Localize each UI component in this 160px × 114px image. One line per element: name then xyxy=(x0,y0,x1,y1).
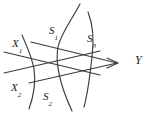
label-s3-base: S xyxy=(87,32,93,44)
label-x1: X1 xyxy=(12,34,22,53)
curve-s2 xyxy=(22,35,35,109)
label-x2-base: X xyxy=(11,81,18,93)
label-s2-base: S xyxy=(43,90,49,102)
label-x2: X2 xyxy=(11,78,21,97)
math-figure: X1 X2 S1 S2 S3 Y xyxy=(0,0,160,114)
label-s1-base: S xyxy=(49,24,55,36)
label-x1-subscript: 1 xyxy=(19,47,23,55)
label-s3-subscript: 3 xyxy=(93,42,97,50)
label-s2-subscript: 2 xyxy=(49,100,53,108)
label-s2: S2 xyxy=(43,87,52,106)
line-x2-to-y xyxy=(29,63,117,83)
label-x2-subscript: 2 xyxy=(18,91,22,99)
label-y: Y xyxy=(135,51,142,67)
label-s1-subscript: 1 xyxy=(55,34,59,42)
curve-s3 xyxy=(84,12,93,107)
curve-s1 xyxy=(57,4,80,111)
label-y-base: Y xyxy=(135,53,142,67)
label-s1: S1 xyxy=(49,21,58,40)
label-x1-base: X xyxy=(12,37,19,49)
line-x1-to-y xyxy=(31,42,117,63)
label-s3: S3 xyxy=(87,29,96,48)
